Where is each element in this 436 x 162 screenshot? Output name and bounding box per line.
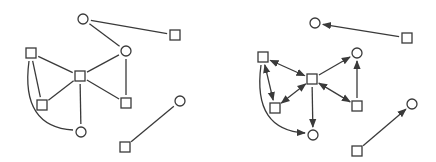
- node-circle-C: [121, 46, 131, 56]
- directed-graph: [258, 18, 417, 156]
- node-square-G: [352, 101, 362, 111]
- node-square-J: [352, 146, 362, 156]
- edge-D-E: [38, 56, 73, 72]
- node-square-B: [402, 33, 412, 43]
- node-square-E: [75, 71, 85, 81]
- nodes: [258, 18, 417, 156]
- node-square-G: [121, 98, 131, 108]
- undirected-graph: [26, 14, 185, 152]
- edge-D-E: [270, 60, 304, 75]
- edge-J-H: [131, 106, 174, 142]
- node-square-E: [307, 74, 317, 84]
- node-circle-I: [308, 130, 318, 140]
- edge-A-B: [91, 20, 167, 33]
- edge-E-I: [312, 87, 313, 127]
- node-square-F: [37, 100, 47, 110]
- edge-D-I: [260, 65, 305, 133]
- edge-D-F: [265, 65, 273, 100]
- node-circle-A: [78, 14, 88, 24]
- edge-F-E: [281, 84, 305, 103]
- edge-E-F: [48, 81, 73, 100]
- edge-D-F: [33, 61, 41, 97]
- edge-E-C: [319, 57, 350, 75]
- node-circle-H: [407, 99, 417, 109]
- node-circle-I: [76, 127, 86, 137]
- edges: [260, 24, 406, 146]
- edge-E-G: [319, 83, 350, 102]
- edge-E-I: [80, 84, 81, 124]
- graph-diagram-canvas: [0, 0, 436, 162]
- edge-J-H: [363, 109, 406, 146]
- node-square-B: [170, 30, 180, 40]
- edges: [28, 20, 174, 141]
- edge-A-C: [89, 24, 119, 46]
- edge-C-E: [87, 55, 119, 72]
- node-circle-C: [352, 48, 362, 58]
- node-square-J: [120, 142, 130, 152]
- edge-E-G: [87, 80, 119, 99]
- node-square-F: [270, 103, 280, 113]
- edge-B-A: [323, 24, 399, 36]
- node-square-D: [26, 48, 36, 58]
- node-circle-A: [310, 18, 320, 28]
- node-square-D: [258, 52, 268, 62]
- node-circle-H: [175, 96, 185, 106]
- nodes: [26, 14, 185, 152]
